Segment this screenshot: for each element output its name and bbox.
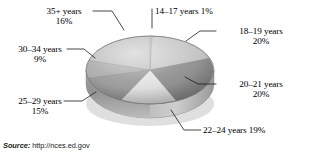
pie-chart-figure: 35+ years16% 30–34 years9% 25–29 years15… xyxy=(0,0,309,161)
slice-label-25-29-line1: 25–29 years xyxy=(18,96,62,106)
slice-label-35-plus-line2: 16% xyxy=(56,16,73,26)
pie-rim-shading xyxy=(86,36,214,104)
slice-label-18-19-line2: 20% xyxy=(253,36,270,46)
slice-label-14-17: 14–17 years 1% xyxy=(155,6,245,16)
slice-label-20-21-line1: 20–21 years xyxy=(239,79,283,89)
leader-line-18-19 xyxy=(186,31,216,41)
slice-label-30-34: 30–34 years9% xyxy=(2,44,78,65)
slice-label-30-34-line1: 30–34 years xyxy=(18,44,62,54)
slice-label-20-21-line2: 20% xyxy=(253,89,270,99)
source-note: Source: http://nces.ed.gov xyxy=(3,141,90,150)
slice-label-20-21: 20–21 years20% xyxy=(218,79,304,100)
slice-label-18-19: 18–19 years20% xyxy=(218,26,304,47)
slice-label-30-34-line2: 9% xyxy=(34,54,46,64)
source-note-prefix: Source: xyxy=(3,141,30,150)
slice-label-25-29-line2: 15% xyxy=(32,106,49,116)
slice-label-25-29: 25–29 years15% xyxy=(2,96,78,117)
slice-label-22-24: 22–24 years 19% xyxy=(203,125,307,135)
slice-label-18-19-line1: 18–19 years xyxy=(239,26,283,36)
source-note-url: http://nces.ed.gov xyxy=(30,141,89,150)
slice-label-35-plus-line1: 35+ years xyxy=(46,6,81,16)
slice-label-35-plus: 35+ years16% xyxy=(26,6,102,27)
